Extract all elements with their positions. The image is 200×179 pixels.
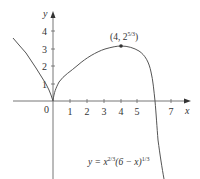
x-axis-arrow-icon <box>184 99 191 104</box>
y-axis-arrow-icon <box>51 11 56 18</box>
equation-label: y = x2/3(6 − x)1/3 <box>87 156 149 168</box>
x-tick-label-7: 7 <box>169 106 174 117</box>
y-axis-label: y <box>42 8 48 19</box>
chart-canvas: 0 1 2 3 4 5 7 x 1 2 3 4 y (4, 25/3) y = … <box>0 0 200 179</box>
x-tick-label-5: 5 <box>135 106 140 117</box>
origin-label: 0 <box>44 104 49 115</box>
y-tick-label-4: 4 <box>42 26 47 37</box>
curve-left-branch <box>13 38 53 101</box>
y-tick-label-3: 3 <box>42 44 47 55</box>
x-axis-label: x <box>184 105 190 116</box>
x-tick-label-4: 4 <box>119 106 124 117</box>
max-point-marker <box>119 44 123 48</box>
x-tick-label-3: 3 <box>102 106 107 117</box>
y-tick-label-2: 2 <box>42 61 47 72</box>
x-tick-label-1: 1 <box>68 106 73 117</box>
x-tick-label-2: 2 <box>85 106 90 117</box>
max-point-label: (4, 25/3) <box>110 31 138 43</box>
